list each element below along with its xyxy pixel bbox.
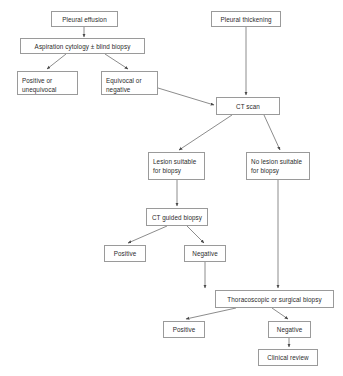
node-surgical-negative[interactable]: Negative: [268, 321, 311, 338]
edge-ct-guided-biopsy-to-biopsy-positive: [128, 226, 167, 243]
node-no-lesion-suitable[interactable]: No lesion suitable for biopsy: [246, 152, 310, 180]
node-pleural-thickening[interactable]: Pleural thickening: [211, 11, 281, 27]
node-surgical-positive[interactable]: Positive: [163, 321, 205, 338]
edge-equivocal-negative-to-ct-scan: [158, 88, 214, 105]
flowchart-edges: [0, 0, 343, 376]
edge-ct-scan-to-lesion-suitable: [179, 115, 232, 150]
node-aspiration-cytology[interactable]: Aspiration cytology ± blind biopsy: [20, 38, 145, 54]
node-positive-unequivocal[interactable]: Positive or unequivocal: [17, 71, 78, 95]
edge-ct-guided-biopsy-to-biopsy-negative: [187, 226, 204, 243]
edge-ct-scan-to-no-lesion-suitable: [264, 115, 280, 150]
node-biopsy-positive[interactable]: Positive: [104, 245, 146, 262]
node-clinical-review[interactable]: Clinical review: [258, 349, 318, 366]
edge-thoracoscopic-biopsy-to-surgical-negative: [272, 308, 288, 319]
node-lesion-suitable[interactable]: Lesion suitable for biopsy: [148, 152, 205, 180]
node-thoracoscopic-biopsy[interactable]: Thoracoscopic or surgical biopsy: [215, 290, 334, 308]
edge-thoracoscopic-biopsy-to-surgical-positive: [186, 308, 236, 319]
node-pleural-effusion[interactable]: Pleural effusion: [51, 11, 118, 27]
node-equivocal-negative[interactable]: Equivocal or negative: [101, 71, 158, 95]
node-ct-guided-biopsy[interactable]: CT guided biopsy: [146, 208, 208, 226]
edge-aspiration-cytology-to-equivocal-negative: [105, 54, 128, 69]
flowchart-canvas: Pleural effusionPleural thickeningAspira…: [0, 0, 343, 376]
edge-aspiration-cytology-to-positive-unequivocal: [47, 54, 66, 69]
node-ct-scan[interactable]: CT scan: [216, 97, 280, 115]
node-biopsy-negative[interactable]: Negative: [184, 245, 226, 262]
